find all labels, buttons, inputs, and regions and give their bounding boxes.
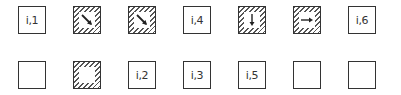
- cell-r1-c3: [128, 6, 156, 34]
- cell-label: i,6: [356, 14, 369, 27]
- cell-inner: [79, 67, 95, 83]
- cell-r2-c7: [348, 61, 376, 89]
- cell-label: i,1: [26, 14, 39, 27]
- cell-r1-c6: [293, 6, 321, 34]
- cell-r2-c5: i,5: [238, 61, 266, 89]
- arrow-diagonal-down-right-icon: [80, 13, 94, 27]
- cell-label: i,2: [136, 69, 149, 82]
- cell-r2-c6: [293, 61, 321, 89]
- cell-r1-c7: i,6: [348, 6, 376, 34]
- cell-r2-c4: i,3: [183, 61, 211, 89]
- cell-inner: [244, 12, 260, 28]
- cell-r1-c4: i,4: [183, 6, 211, 34]
- cell-inner: [299, 12, 315, 28]
- arrow-down-icon: [245, 13, 259, 27]
- cell-inner: [79, 12, 95, 28]
- arrow-diagonal-down-right-icon: [135, 13, 149, 27]
- cell-r1-c5: [238, 6, 266, 34]
- arrow-right-icon: [300, 13, 314, 27]
- cell-label: i,5: [246, 69, 259, 82]
- cell-inner: [134, 12, 150, 28]
- cell-r2-c3: i,2: [128, 61, 156, 89]
- cell-r1-c1: i,1: [18, 6, 46, 34]
- cell-label: i,3: [191, 69, 204, 82]
- cell-r2-c2: [73, 61, 101, 89]
- cell-r1-c2: [73, 6, 101, 34]
- cell-label: i,4: [191, 14, 204, 27]
- cell-r2-c1: [18, 61, 46, 89]
